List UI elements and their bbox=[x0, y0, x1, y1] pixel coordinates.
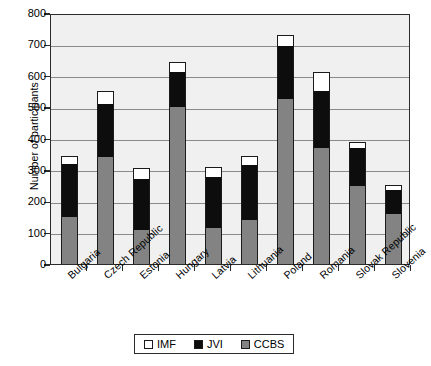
bar-segment-imf bbox=[97, 91, 114, 104]
bar-segment-imf bbox=[169, 62, 186, 72]
chart-legend: IMFJVICCBS bbox=[134, 334, 294, 354]
bar-segment-ccbs bbox=[313, 148, 330, 264]
bar-segment-jvi bbox=[349, 148, 366, 186]
y-axis-tick-label: 800 bbox=[6, 8, 46, 19]
gridline bbox=[51, 77, 409, 78]
legend-label: IMF bbox=[157, 338, 176, 350]
gridline bbox=[51, 46, 409, 47]
bar-segment-jvi bbox=[97, 104, 114, 157]
y-axis-tick-label: 0 bbox=[6, 259, 46, 270]
bar-segment-ccbs bbox=[277, 99, 294, 264]
bar-segment-imf bbox=[241, 156, 258, 165]
bar-segment-jvi bbox=[385, 190, 402, 214]
y-axis-tick-label: 200 bbox=[6, 196, 46, 207]
bar-segment-imf bbox=[277, 35, 294, 46]
legend-swatch-imf bbox=[144, 340, 153, 349]
chart-figure: Number of participants 01002003004005006… bbox=[0, 0, 431, 366]
legend-label: JVI bbox=[207, 338, 223, 350]
bar-segment-ccbs bbox=[205, 228, 222, 264]
y-axis-tick-label: 100 bbox=[6, 228, 46, 239]
stacked-bar bbox=[241, 156, 258, 264]
stacked-bar bbox=[313, 72, 330, 264]
stacked-bar bbox=[97, 91, 114, 264]
bar-segment-imf bbox=[313, 72, 330, 91]
legend-item-ccbs: CCBS bbox=[241, 338, 285, 350]
legend-swatch-ccbs bbox=[241, 340, 250, 349]
bar-segment-ccbs bbox=[241, 220, 258, 264]
stacked-bar bbox=[61, 156, 78, 264]
bar-segment-jvi bbox=[277, 46, 294, 99]
bar-segment-jvi bbox=[205, 177, 222, 228]
bar-segment-imf bbox=[61, 156, 78, 164]
bar-segment-imf bbox=[133, 168, 150, 179]
bar-segment-jvi bbox=[169, 72, 186, 107]
legend-swatch-jvi bbox=[194, 340, 203, 349]
bar-segment-jvi bbox=[133, 179, 150, 229]
bar-segment-ccbs bbox=[97, 157, 114, 264]
y-axis-tick-label: 500 bbox=[6, 102, 46, 113]
legend-label: CCBS bbox=[254, 338, 285, 350]
legend-item-imf: IMF bbox=[144, 338, 176, 350]
stacked-bar bbox=[169, 62, 186, 264]
bar-segment-imf bbox=[205, 167, 222, 177]
plot-area bbox=[50, 14, 410, 265]
bar-segment-ccbs bbox=[169, 107, 186, 264]
bar-segment-jvi bbox=[313, 91, 330, 148]
bar-segment-ccbs bbox=[61, 217, 78, 264]
bar-segment-jvi bbox=[61, 164, 78, 217]
bar-segment-jvi bbox=[241, 165, 258, 220]
y-axis-tick-label: 300 bbox=[6, 165, 46, 176]
y-axis-tick-label: 400 bbox=[6, 134, 46, 145]
legend-item-jvi: JVI bbox=[194, 338, 223, 350]
stacked-bar bbox=[277, 35, 294, 264]
y-axis-tick-label: 700 bbox=[6, 39, 46, 50]
y-axis-tick-label: 600 bbox=[6, 71, 46, 82]
